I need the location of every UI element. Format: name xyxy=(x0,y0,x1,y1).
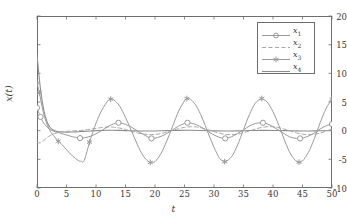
legend-label-x4: x4 xyxy=(293,62,301,73)
xtick-label-25: 25 xyxy=(172,190,198,199)
xtick-label-35: 35 xyxy=(231,190,257,199)
xtick-label-45: 45 xyxy=(290,190,316,199)
data-point-x1 xyxy=(77,136,82,141)
ytick-label-20: 20 xyxy=(315,13,347,22)
xtick-label-10: 10 xyxy=(83,190,109,199)
xtick-label-15: 15 xyxy=(113,190,139,199)
legend-sample-x2 xyxy=(261,38,291,49)
xtick-label-5: 5 xyxy=(54,190,80,199)
legend-entry-x1[interactable]: x1 xyxy=(261,25,311,37)
xtick-label-40: 40 xyxy=(260,190,286,199)
x-axis-label: t xyxy=(0,203,347,214)
data-point-x3 xyxy=(35,80,40,86)
xtick-label-30: 30 xyxy=(201,190,227,199)
data-point-x1 xyxy=(329,121,334,126)
data-point-x1 xyxy=(185,120,190,125)
legend-label-x3: x3 xyxy=(293,50,301,61)
data-point-x3 xyxy=(87,139,92,145)
data-point-x1 xyxy=(116,120,121,125)
legend-entry-x3[interactable]: x3 xyxy=(261,49,311,61)
ytick-label-10: 10 xyxy=(315,70,347,79)
data-point-x1 xyxy=(149,136,154,141)
ytick-label-0: 0 xyxy=(315,127,347,136)
xtick-label-50: 50 xyxy=(319,190,345,199)
ytick-label-5: 5 xyxy=(315,99,347,108)
xtick-label-0: 0 xyxy=(24,190,50,199)
legend-label-x2: x2 xyxy=(293,38,301,49)
xtick-label-20: 20 xyxy=(142,190,168,199)
legend-label-x1: x1 xyxy=(293,26,301,37)
data-point-x1 xyxy=(223,136,228,141)
legend[interactable]: x1 x2 x3 xyxy=(257,22,315,74)
legend-sample-x4 xyxy=(261,62,291,73)
ytick-label-neg5: -5 xyxy=(315,156,347,165)
data-point-x1 xyxy=(38,114,43,119)
legend-entry-x4[interactable]: x4 xyxy=(261,61,311,73)
data-point-x3 xyxy=(259,96,264,102)
ytick-label-15: 15 xyxy=(315,41,347,50)
legend-entry-x2[interactable]: x2 xyxy=(261,37,311,49)
data-point-x1 xyxy=(34,105,39,110)
figure: 20 15 10 5 0 -5 -10 0 5 10 15 20 25 30 3… xyxy=(0,0,347,223)
data-point-x1 xyxy=(260,120,265,125)
data-point-x1 xyxy=(298,136,303,141)
y-axis-label: x(t) xyxy=(3,72,14,116)
legend-sample-x3 xyxy=(261,50,291,61)
legend-sample-x1 xyxy=(261,26,291,37)
